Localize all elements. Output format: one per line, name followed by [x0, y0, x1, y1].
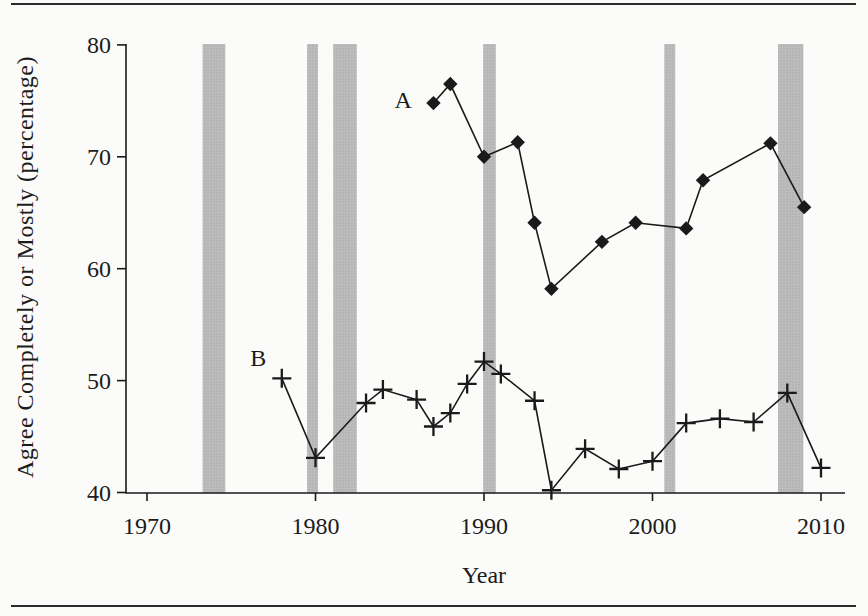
bottom-rule	[11, 605, 856, 607]
chart-canvas: 405060708019701980199020002010AB	[0, 0, 868, 616]
series-b-plus-marker	[424, 417, 443, 436]
series-b-line	[282, 362, 821, 491]
x-axis-title: Year	[462, 562, 506, 589]
recession-band	[307, 44, 318, 493]
tick-and-series-labels: 405060708019701980199020002010AB	[87, 32, 845, 539]
series-b-plus-marker	[458, 374, 477, 393]
recession-band	[664, 44, 675, 493]
axes	[117, 44, 845, 501]
recession-band	[483, 44, 496, 493]
series-a-diamond-marker	[763, 136, 777, 150]
x-tick-label: 1980	[292, 513, 340, 539]
x-tick-label: 1970	[123, 513, 171, 539]
series-b-plus-marker	[542, 481, 561, 500]
series-b-plus-marker	[576, 439, 595, 458]
y-tick-label: 70	[87, 144, 111, 170]
series-b-plus-marker	[812, 458, 831, 477]
y-tick-label: 50	[87, 368, 111, 394]
series-b-plus-marker	[272, 369, 291, 388]
series-b-plus-marker	[407, 390, 426, 409]
recession-band	[203, 44, 226, 493]
x-tick-label: 1990	[460, 513, 508, 539]
series-label-a: A	[394, 87, 412, 113]
series-b-plus-marker	[609, 460, 628, 479]
series-b-plus-marker	[710, 409, 729, 428]
series-a-diamond-marker	[679, 221, 693, 235]
y-tick-label: 60	[87, 256, 111, 282]
series-b-plus-marker	[373, 380, 392, 399]
recession-bands	[203, 44, 804, 493]
series-a-diamond-marker	[527, 216, 541, 230]
series-b-plus-marker	[441, 404, 460, 423]
recession-band	[778, 44, 803, 493]
x-tick-label: 2000	[629, 513, 677, 539]
series-a-diamond-marker	[696, 173, 710, 187]
series-a-diamond-marker	[511, 135, 525, 149]
y-axis-title: Agree Completely or Mostly (percentage)	[12, 56, 39, 478]
series-b-plus-marker	[525, 391, 544, 410]
series-label-b: B	[250, 345, 266, 371]
y-tick-label: 40	[87, 480, 111, 506]
figure-panel: 405060708019701980199020002010AB Agree C…	[0, 0, 868, 616]
series-a-diamond-marker	[628, 216, 642, 230]
x-tick-label: 2010	[797, 513, 845, 539]
y-tick-label: 80	[87, 32, 111, 58]
